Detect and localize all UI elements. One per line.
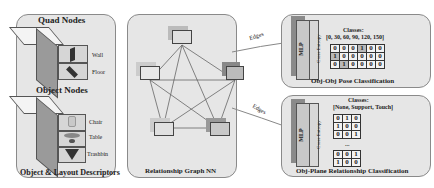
classes-title-top: Classes: <box>343 27 364 33</box>
relationship-matrix-bottom: 001 100 <box>333 150 361 167</box>
graph-node-top <box>172 30 192 44</box>
classes-values-top: [0, 30, 60, 90, 120, 150] <box>326 34 384 40</box>
graph-node-bottom-right <box>210 122 230 136</box>
mlp-label-top: MLP <box>298 42 304 55</box>
graph-footer: Relationship Graph NN <box>145 167 216 175</box>
cross-entropy-label-bottom: Cross Entropy <box>316 120 321 149</box>
pose-footer: Obj-Obj Pose Classification <box>311 77 394 85</box>
classes-title-bottom: Classes: <box>348 97 369 103</box>
classes-values-bottom: [None, Support, Touch] <box>333 104 393 110</box>
cross-entropy-label-top: Cross Entropy <box>316 34 321 63</box>
matrix-ellipsis: ... <box>345 141 350 147</box>
graph-node-right <box>226 66 244 80</box>
graph-node-left <box>140 66 160 80</box>
graph-node-bottom-left <box>154 122 174 136</box>
pose-one-hot-matrix: 000100 100000 010000 <box>330 44 385 69</box>
relationship-footer: Obj-Plane Relationship Classification <box>296 167 408 175</box>
relationship-matrix-top: 010 100 001 <box>333 114 361 139</box>
mlp-label-bottom: MLP <box>298 128 304 141</box>
